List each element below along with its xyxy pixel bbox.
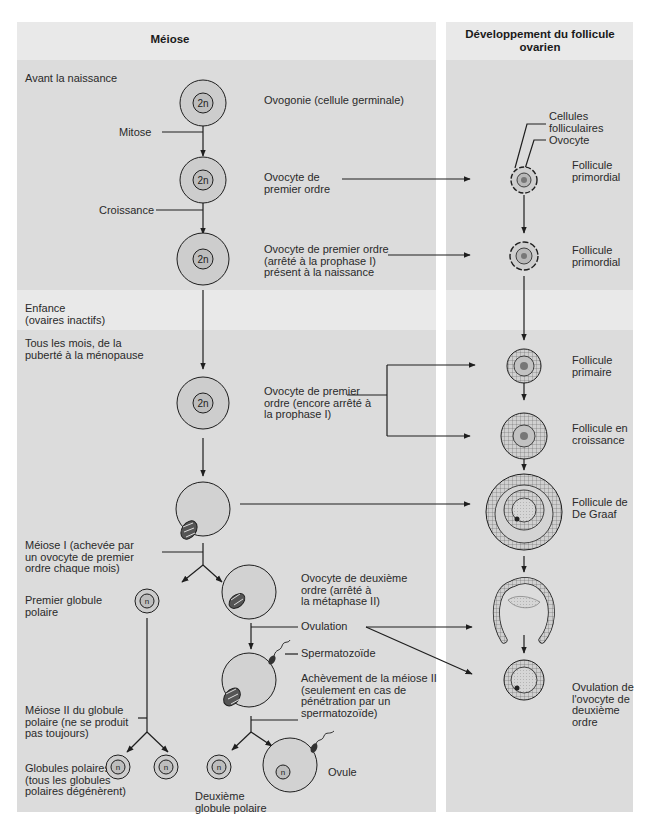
follicle-primordial-2 (510, 242, 538, 270)
cell-oogonium: 2n (180, 80, 226, 126)
oogenesis-diagram: Méiose Développement du follicule ovarie… (0, 0, 650, 822)
cell-primary-oocyte: 2n (180, 157, 226, 203)
cell-polar-body-2: n (154, 755, 178, 779)
follicle-primary (507, 349, 541, 383)
cell-primary-oocyte-monthly: 2n (177, 377, 229, 429)
cell-oocyte-with-sperm (220, 640, 290, 709)
svg-text:n: n (116, 763, 120, 772)
follicle-primordial-1 (511, 167, 537, 193)
cell-ovum: n (263, 731, 334, 792)
svg-text:n: n (281, 768, 285, 777)
follicle-growing (501, 413, 547, 459)
svg-text:n: n (217, 763, 221, 772)
cell-primary-oocyte-arrested: 2n (177, 233, 229, 285)
follicle-ruptured (496, 581, 551, 640)
cell-polar-body-1: n (106, 755, 130, 779)
svg-text:2n: 2n (197, 98, 208, 109)
svg-text:n: n (164, 763, 168, 772)
svg-text:2n: 2n (197, 398, 208, 409)
follicle-ovulated-oocyte (504, 660, 544, 700)
svg-text:2n: 2n (197, 254, 208, 265)
cell-secondary-oocyte (222, 565, 276, 619)
cell-first-polar-body: n (135, 589, 159, 613)
svg-text:2n: 2n (197, 175, 208, 186)
cell-meiosis-1 (176, 482, 230, 542)
follicle-graafian (486, 474, 562, 550)
cell-second-polar-body: n (207, 755, 231, 779)
svg-text:n: n (145, 597, 149, 606)
diagram-drawing: 2n 2n 2n 2n n (0, 0, 650, 822)
